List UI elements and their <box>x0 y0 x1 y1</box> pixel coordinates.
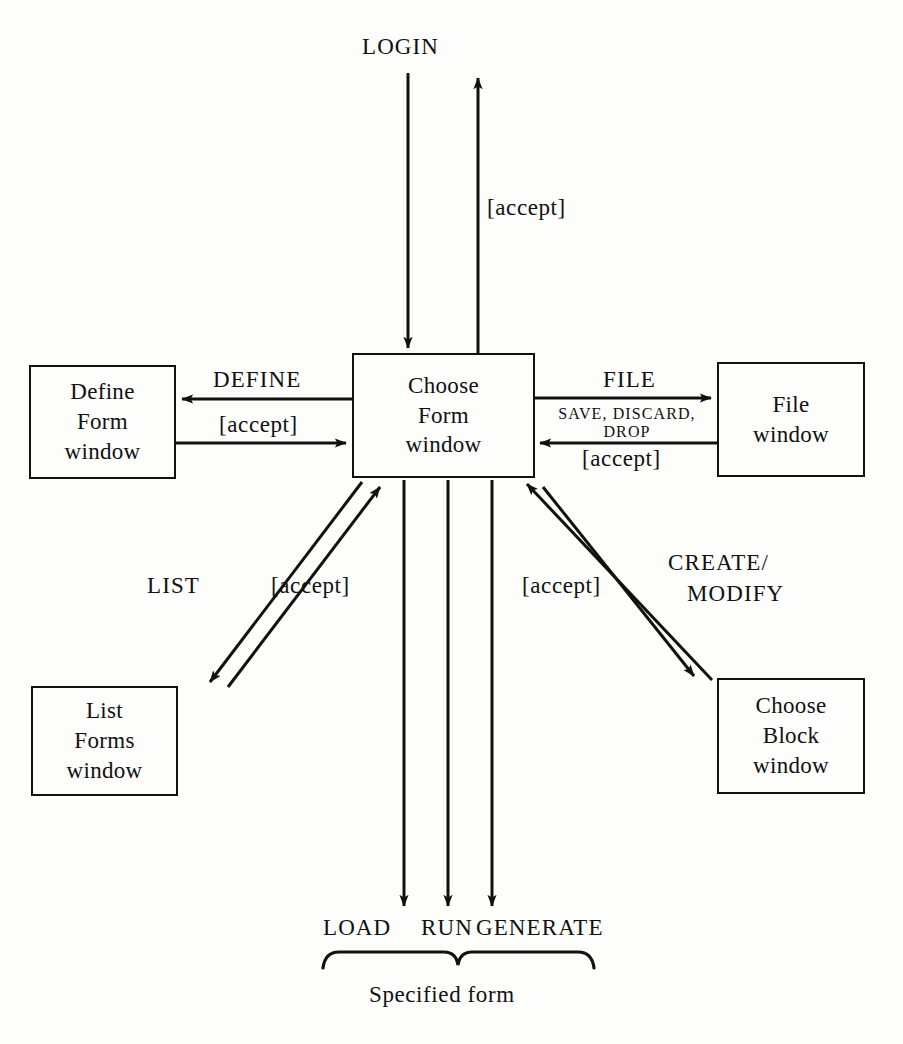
edge-label-list-accept: [accept] <box>271 573 350 599</box>
node-choose-form-line-2: Form <box>418 401 469 431</box>
node-list-forms-line-1: List <box>86 696 123 726</box>
edge-label-run: RUN <box>421 915 473 941</box>
node-define-form-line-3: window <box>65 437 141 467</box>
edge-label-file-commands-line-2: DROP <box>603 423 650 440</box>
edge-label-login-accept: [accept] <box>487 195 566 221</box>
diagram-connectors <box>0 0 903 1044</box>
edge-label-file: FILE <box>603 367 656 393</box>
node-define-form-line-2: Form <box>77 407 128 437</box>
node-choose-block-line-2: Block <box>763 721 819 751</box>
edge-label-file-commands: SAVE, DISCARD, DROP <box>547 405 707 442</box>
edge-label-define-accept: [accept] <box>219 412 298 438</box>
node-file-window[interactable]: File window <box>717 362 865 477</box>
edge-label-create-modify-accept: [accept] <box>522 573 601 599</box>
edge-label-file-accept: [accept] <box>582 446 661 472</box>
edge-label-define: DEFINE <box>213 367 301 393</box>
edge-label-file-commands-line-1: SAVE, DISCARD, <box>558 405 695 422</box>
node-file-line-2: window <box>753 420 829 450</box>
node-choose-block-window[interactable]: Choose Block window <box>717 678 865 794</box>
edge-label-create-modify-line-1: CREATE/ <box>668 550 769 576</box>
node-list-forms-line-2: Forms <box>74 726 134 756</box>
node-choose-block-line-1: Choose <box>756 691 827 721</box>
node-define-form-line-1: Define <box>70 377 134 407</box>
diagram-canvas: Choose Form window Define Form window Fi… <box>0 0 903 1044</box>
node-define-form-window[interactable]: Define Form window <box>29 365 176 479</box>
node-choose-form-line-1: Choose <box>408 371 479 401</box>
edge-label-create-modify-line-2: MODIFY <box>687 581 784 607</box>
node-choose-form-window[interactable]: Choose Form window <box>352 353 535 478</box>
edge-label-login: LOGIN <box>362 34 439 60</box>
node-list-forms-window[interactable]: List Forms window <box>31 686 178 796</box>
node-list-forms-line-3: window <box>67 756 143 786</box>
specified-form-brace <box>323 952 594 968</box>
edge-label-generate: GENERATE <box>476 915 604 941</box>
node-file-line-1: File <box>773 390 810 420</box>
node-choose-form-line-3: window <box>406 430 482 460</box>
edge-label-specified-form: Specified form <box>369 982 515 1008</box>
edge-label-load: LOAD <box>323 915 391 941</box>
node-choose-block-line-3: window <box>753 751 829 781</box>
edge-label-list: LIST <box>147 573 200 599</box>
